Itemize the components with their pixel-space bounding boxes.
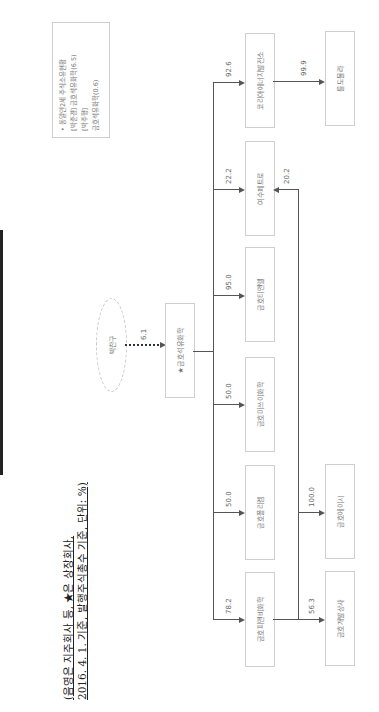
owner-stake: 6.1 [140, 329, 148, 340]
ownership-diagram: (음영은 지주회사 등, ★은 상장회사, 2016. 4. 1. 기준, 발행… [0, 0, 379, 712]
note-line: [박주형] [80, 29, 91, 131]
second-tier-box-4: 를도물라 [325, 31, 355, 126]
stub-6 [213, 82, 240, 83]
subsidiary-name: 금호피앤비화학 [255, 597, 265, 643]
stake-5: 22.2 [225, 168, 233, 184]
second-tier-name: 금호에이시 [335, 495, 345, 528]
subsidiary-box-1: 금호피앤비화학 [245, 572, 275, 667]
subsidiary-box-2: 금호폴리켐 [245, 465, 275, 560]
pnb-connector [273, 619, 298, 620]
stub-3 [213, 404, 240, 405]
stake-2-3: 20.2 [283, 168, 291, 184]
note-box: • 동일인2세 주식소유현황 [박준경] 금호석유화학(6.5) [박주형] 금… [52, 22, 110, 138]
parent-connector [193, 351, 213, 352]
stub-2-1 [298, 619, 320, 620]
stake-2: 50.0 [225, 491, 233, 507]
stake-3: 50.0 [225, 383, 233, 399]
stake-1: 78.2 [225, 598, 233, 614]
subsidiary-name: 금호티앤엘 [255, 278, 265, 311]
header-line-2: 2016. 4. 1. 기준, 발행주식총수 기준, 단위: %) [74, 482, 89, 700]
stub-4 [213, 295, 240, 296]
stake-2-2: 100.0 [308, 487, 316, 507]
owner-name: 박찬구 [107, 336, 117, 354]
stake-4: 95.0 [225, 274, 233, 290]
stub-2 [213, 512, 240, 513]
subsidiary-box-5: 여수페트로 [245, 141, 275, 236]
subsidiary-name: 금호미쓰이화학 [255, 382, 265, 428]
note-line: 금호석유화학(0.6) [91, 29, 102, 131]
subsidiary-box-4: 금호티앤엘 [245, 247, 275, 342]
trunk-2 [298, 189, 299, 620]
second-tier-name: 를도물라 [335, 66, 345, 92]
subsidiary-box-3: 금호미쓰이화학 [245, 357, 275, 452]
stub-2-2 [298, 512, 320, 513]
parent-box: ★금호석유화학 [165, 303, 195, 398]
note-line: [박준경] 금호석유화학(6.5) [69, 29, 80, 131]
second-tier-name: 금호개발상사 [335, 599, 345, 638]
stub-2-3 [279, 189, 299, 190]
owner-ellipse: 박찬구 [96, 298, 127, 392]
arrow-2-3 [273, 187, 279, 193]
energy-connector [273, 81, 320, 82]
trunk-1 [213, 82, 214, 620]
subsidiary-name: 여수페트로 [255, 172, 265, 205]
header-line-1: (음영은 지주회사 등, ★은 상장회사, [60, 536, 75, 700]
stake-6: 92.6 [225, 61, 233, 77]
owner-stake-line [125, 344, 163, 346]
note-title: • 동일인2세 주식소유현황 [58, 29, 69, 131]
subsidiary-name: 코리아에너지발전소 [255, 51, 265, 110]
subsidiary-name: 금호폴리켐 [255, 496, 265, 529]
parent-name: ★금호석유화학 [175, 328, 185, 374]
subsidiary-box-6: 코리아에너지발전소 [245, 33, 275, 128]
second-tier-box-1: 금호개발상사 [325, 571, 355, 666]
second-tier-box-2: 금호에이시 [325, 464, 355, 559]
stake-2-4: 99.9 [300, 60, 308, 76]
page-edge-rule [0, 230, 3, 475]
stub-5 [213, 189, 240, 190]
stake-2-1: 56.3 [308, 598, 316, 614]
stub-1 [213, 619, 240, 620]
